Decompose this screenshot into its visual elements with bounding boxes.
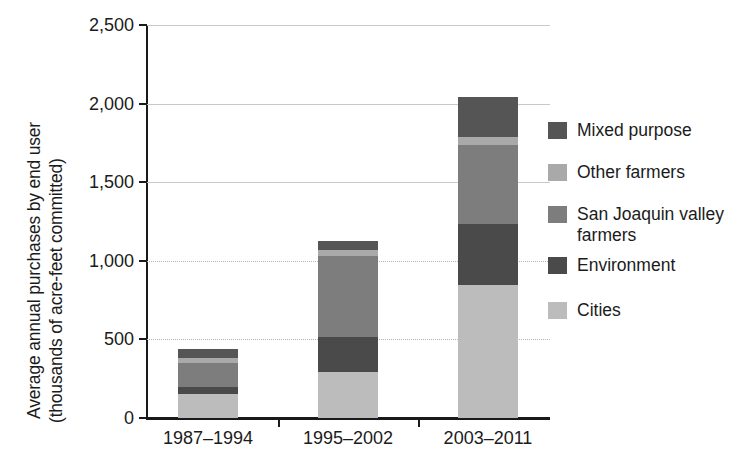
legend-swatch — [548, 164, 567, 181]
bar-segment[interactable] — [458, 145, 518, 224]
bar-1987–1994[interactable] — [178, 25, 238, 418]
legend-label: San Joaquin valley farmers — [577, 204, 724, 246]
bar-1995–2002[interactable] — [318, 25, 378, 418]
legend-swatch — [548, 302, 567, 319]
bar-segment[interactable] — [458, 137, 518, 145]
x-axis-tick — [278, 418, 280, 427]
legend-label: Cities — [577, 300, 621, 321]
bar-segment[interactable] — [178, 358, 238, 363]
y-axis-tick-label: 1,000 — [89, 250, 134, 271]
legend-swatch — [548, 257, 567, 274]
bar-segment[interactable] — [318, 256, 378, 337]
bar-segment[interactable] — [458, 285, 518, 418]
bar-segment[interactable] — [178, 394, 238, 418]
y-axis-tick — [139, 103, 147, 105]
legend-item[interactable]: San Joaquin valley farmers — [548, 204, 724, 246]
y-axis-tick-label: 500 — [104, 329, 134, 350]
x-axis-tick-label: 1995–2002 — [303, 428, 393, 449]
y-axis-tick-label: 2,000 — [89, 93, 134, 114]
y-axis-title-line-1: Average annual purchases by end user — [24, 122, 45, 419]
bar-segment[interactable] — [178, 363, 238, 387]
bar-segment[interactable] — [458, 224, 518, 285]
y-axis-tick — [139, 338, 147, 340]
x-axis-tick-label: 1987–1994 — [163, 428, 253, 449]
x-axis-tick-label: 2003–2011 — [444, 428, 533, 449]
legend-item[interactable]: Other farmers — [548, 162, 685, 183]
y-axis-tick — [139, 24, 147, 26]
legend-label: Environment — [577, 255, 675, 276]
y-axis-title: Average annual purchases by end user (th… — [0, 0, 56, 430]
bar-segment[interactable] — [178, 349, 238, 358]
legend-item[interactable]: Cities — [548, 300, 621, 321]
legend-swatch — [548, 206, 567, 223]
legend-item[interactable]: Environment — [548, 255, 675, 276]
y-axis-tick — [139, 260, 147, 262]
bar-segment[interactable] — [178, 387, 238, 393]
legend-label: Other farmers — [577, 162, 685, 183]
y-axis-tick-label: 2,500 — [89, 15, 134, 36]
bar-segment[interactable] — [458, 97, 518, 137]
stacked-bar-chart: Average annual purchases by end user (th… — [0, 0, 748, 469]
bar-segment[interactable] — [318, 372, 378, 418]
y-axis-tick — [139, 181, 147, 183]
legend-item[interactable]: Mixed purpose — [548, 120, 692, 141]
plot-area: 05001,0001,5002,0002,500 — [146, 25, 550, 418]
y-axis-tick-label: 1,500 — [89, 172, 134, 193]
bar-2003–2011[interactable] — [458, 25, 518, 418]
x-axis-tick — [418, 418, 420, 427]
y-axis-tick-label: 0 — [124, 408, 134, 429]
legend-label: Mixed purpose — [577, 120, 692, 141]
bar-segment[interactable] — [318, 337, 378, 372]
y-axis-tick — [139, 417, 147, 419]
y-axis-title-line-2: (thousands of acre-feet committed) — [46, 158, 67, 423]
bar-segment[interactable] — [318, 241, 378, 250]
legend-swatch — [548, 122, 567, 139]
bar-segment[interactable] — [318, 250, 378, 256]
